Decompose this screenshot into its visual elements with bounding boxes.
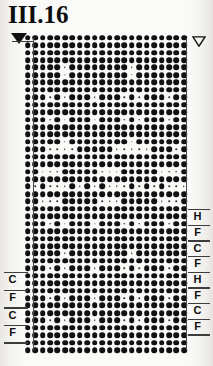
dot-punched [106,220,113,227]
dot-punched [128,34,135,41]
dot-unpunched [128,138,135,145]
dot-punched [84,108,91,115]
grid-row [24,160,190,167]
dot-punched [61,41,68,48]
grid-row [24,64,190,71]
dot-punched [143,279,150,286]
dot-punched [121,242,128,249]
grid-row [24,272,190,279]
dot-punched [121,287,128,294]
grid-row [24,309,190,316]
dot-punched [106,34,113,41]
dot-punched [173,279,180,286]
dot-punched [173,227,180,234]
dot-punched [143,71,150,78]
dot-punched [165,309,172,316]
dot-punched [61,131,68,138]
dot-punched [24,79,31,86]
dot-punched [91,302,98,309]
dot-punched [113,287,120,294]
dot-punched [98,242,105,249]
dot-punched [76,175,83,182]
dot-punched [98,235,105,242]
dot-punched [24,41,31,48]
dot-punched [173,250,180,257]
dot-punched [46,346,53,353]
dot-punched [121,272,128,279]
dot-unpunched [136,146,143,153]
dot-punched [113,346,120,353]
dot-punched [84,183,91,190]
dot-punched [121,213,128,220]
dot-punched [106,339,113,346]
dot-punched [121,108,128,115]
dot-punched [61,324,68,331]
dot-punched [150,235,157,242]
dot-punched [113,123,120,130]
dot-punched [91,250,98,257]
dot-punched [143,213,150,220]
dot-punched [121,101,128,108]
dot-punched [106,287,113,294]
dot-punched [61,168,68,175]
dot-unpunched [121,116,128,123]
dot-punched [173,324,180,331]
dot-punched [113,56,120,63]
dot-unpunched [46,94,53,101]
dot-punched [143,56,150,63]
dot-punched [69,34,76,41]
dot-unpunched [121,317,128,324]
dot-punched [54,123,61,130]
dot-punched [136,41,143,48]
dot-punched [121,64,128,71]
marker-label: F [191,320,204,333]
dot-punched [54,205,61,212]
dot-punched [150,153,157,160]
dot-punched [165,56,172,63]
dot-punched [46,272,53,279]
dot-punched [46,160,53,167]
dot-punched [106,205,113,212]
dot-punched [173,94,180,101]
dot-punched [24,138,31,145]
dot-punched [54,324,61,331]
dot-punched [69,101,76,108]
dot-punched [98,86,105,93]
dot-punched [24,86,31,93]
dot-punched [69,287,76,294]
grid-row [24,138,190,145]
marker-label: H [191,273,204,286]
dot-punched [173,138,180,145]
dot-punched [54,242,61,249]
dot-punched [150,79,157,86]
dot-punched [165,101,172,108]
dot-punched [69,138,76,145]
dot-punched [150,86,157,93]
dot-punched [91,227,98,234]
dot-punched [91,108,98,115]
dot-unpunched [121,146,128,153]
grid-row [24,198,190,205]
dot-punched [24,146,31,153]
dot-punched [98,160,105,167]
dot-punched [143,324,150,331]
dot-punched [54,160,61,167]
dot-punched [121,153,128,160]
dot-punched [158,175,165,182]
dot-punched [106,272,113,279]
dot-punched [113,339,120,346]
dot-punched [113,317,120,324]
dot-punched [121,279,128,286]
dot-punched [98,332,105,339]
dot-punched [173,272,180,279]
dot-unpunched [128,71,135,78]
dot-punched [128,317,135,324]
dot-punched [113,86,120,93]
dot-punched [173,265,180,272]
dot-punched [61,302,68,309]
dot-punched [61,242,68,249]
grid-row [24,101,190,108]
dot-punched [46,56,53,63]
dot-punched [136,213,143,220]
dot-punched [84,49,91,56]
